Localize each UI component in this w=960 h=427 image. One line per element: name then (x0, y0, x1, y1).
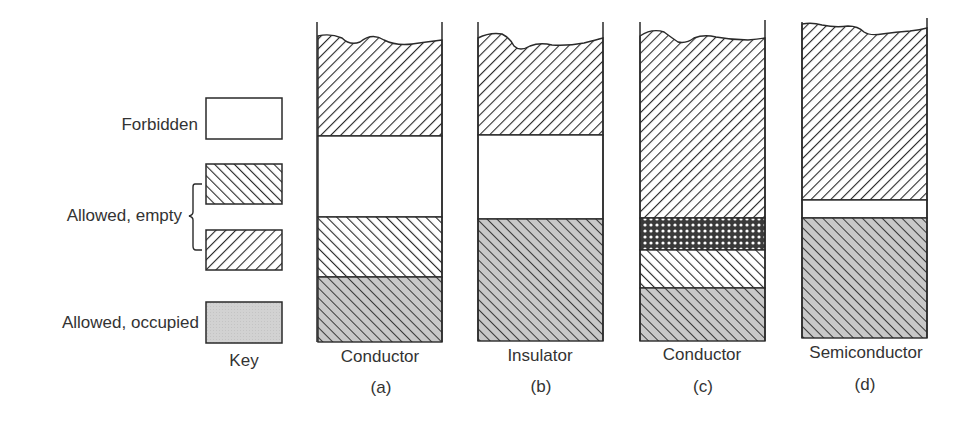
key-label-allowed-empty: Allowed, empty (67, 206, 183, 225)
band-diagram: Forbidden Allowed, empty Allowed, occupi… (0, 0, 960, 427)
key-title: Key (229, 351, 259, 370)
column-d-letter: (d) (855, 375, 876, 394)
key-swatch-empty-right (206, 164, 282, 204)
band-overlap-crosshatch (640, 218, 765, 250)
band-allowed-empty-upper (318, 35, 442, 136)
column-b-name: Insulator (507, 346, 573, 365)
band-allowed-empty (478, 34, 603, 136)
column-a-name: Conductor (341, 347, 420, 366)
column-c-letter: (c) (693, 377, 713, 396)
band-allowed-empty-lower (318, 217, 442, 277)
key-swatch-empty-left (206, 230, 282, 270)
column-b-letter: (b) (531, 377, 552, 396)
column-d-name: Semiconductor (809, 343, 923, 362)
column-d-semiconductor: Semiconductor (d) (802, 18, 927, 394)
band-forbidden (318, 136, 442, 217)
key-label-forbidden: Forbidden (121, 115, 198, 134)
brace-icon (189, 184, 202, 250)
column-c-name: Conductor (663, 345, 742, 364)
column-a-letter: (a) (371, 378, 392, 397)
band-allowed-occupied (802, 218, 927, 338)
column-a-conductor: Conductor (a) (317, 22, 442, 397)
band-allowed-occupied (640, 288, 765, 341)
key-swatch-occupied (206, 302, 282, 343)
key-legend: Forbidden Allowed, empty Allowed, occupi… (62, 98, 282, 370)
band-forbidden (478, 135, 603, 219)
band-allowed-empty (802, 23, 927, 200)
band-allowed-occupied (478, 219, 603, 341)
band-forbidden-narrow (802, 200, 927, 218)
column-b-insulator: Insulator (b) (478, 22, 603, 396)
band-allowed-occupied (318, 277, 442, 342)
key-label-allowed-occupied: Allowed, occupied (62, 313, 199, 332)
band-allowed-empty-lower (640, 250, 765, 288)
key-swatch-forbidden (206, 98, 282, 139)
band-allowed-empty-upper (640, 31, 765, 218)
column-c-conductor: Conductor (c) (640, 20, 765, 396)
